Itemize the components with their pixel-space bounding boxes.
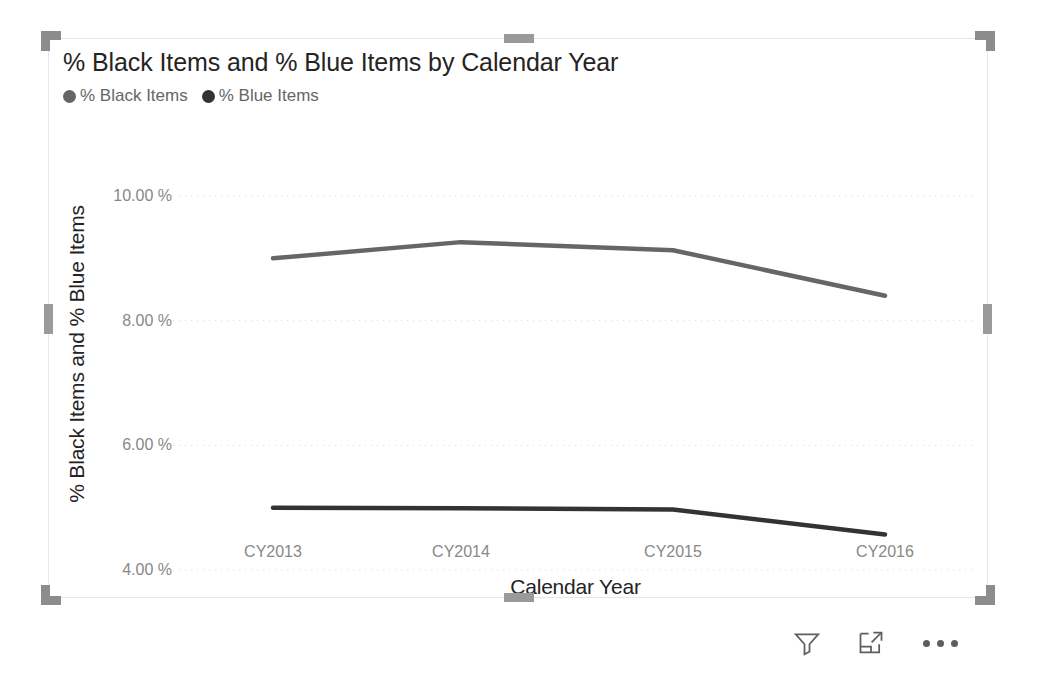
series-lines bbox=[273, 242, 885, 534]
series-line[interactable] bbox=[273, 242, 885, 296]
plot-area[interactable]: % Black Items and % Blue Items 10.00 % 8… bbox=[49, 139, 989, 599]
chart-title: % Black Items and % Blue Items by Calend… bbox=[63, 45, 973, 79]
x-axis-title: Calendar Year bbox=[173, 575, 978, 599]
legend-item-label: % Blue Items bbox=[219, 86, 319, 106]
resize-handle-top-center[interactable] bbox=[504, 34, 534, 43]
legend-item-label: % Black Items bbox=[80, 86, 188, 106]
resize-handle-bottom-left[interactable] bbox=[41, 585, 61, 605]
dot bbox=[923, 640, 930, 647]
visual-action-bar[interactable] bbox=[790, 615, 1005, 671]
x-tick-label: CY2016 bbox=[856, 543, 914, 561]
resize-handle-bottom-center[interactable] bbox=[504, 593, 534, 602]
chart-legend[interactable]: % Black Items % Blue Items bbox=[63, 84, 973, 108]
y-tick-label: 4.00 % bbox=[86, 561, 172, 579]
legend-color-dot bbox=[63, 90, 76, 103]
resize-handle-top-left[interactable] bbox=[41, 31, 61, 51]
legend-color-dot bbox=[202, 90, 215, 103]
legend-item-black-items[interactable]: % Black Items bbox=[63, 86, 188, 106]
y-tick-label: 6.00 % bbox=[86, 436, 172, 454]
dot bbox=[951, 640, 958, 647]
gridlines bbox=[173, 196, 973, 570]
resize-handle-top-right[interactable] bbox=[975, 31, 995, 51]
visual-header: % Black Items and % Blue Items by Calend… bbox=[63, 45, 973, 108]
chart-plot-svg[interactable] bbox=[173, 139, 979, 579]
resize-handle-middle-left[interactable] bbox=[44, 304, 53, 334]
x-tick-label: CY2014 bbox=[432, 543, 490, 561]
line-chart-visual[interactable]: % Black Items and % Blue Items by Calend… bbox=[48, 38, 988, 598]
legend-item-blue-items[interactable]: % Blue Items bbox=[202, 86, 319, 106]
y-tick-label: 10.00 % bbox=[86, 187, 172, 205]
filter-icon[interactable] bbox=[790, 626, 824, 660]
x-tick-label: CY2015 bbox=[644, 543, 702, 561]
dot bbox=[937, 640, 944, 647]
resize-handle-bottom-right[interactable] bbox=[975, 585, 995, 605]
y-axis-tick-labels: 10.00 % 8.00 % 6.00 % 4.00 % bbox=[84, 139, 172, 569]
series-line[interactable] bbox=[273, 508, 885, 535]
x-tick-label: CY2013 bbox=[244, 543, 302, 561]
resize-handle-middle-right[interactable] bbox=[983, 304, 992, 334]
more-options-icon[interactable] bbox=[918, 626, 962, 660]
y-tick-label: 8.00 % bbox=[86, 312, 172, 330]
focus-mode-icon[interactable] bbox=[854, 626, 888, 660]
